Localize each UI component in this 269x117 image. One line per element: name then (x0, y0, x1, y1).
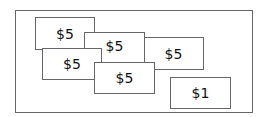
bill-label: $5 (116, 70, 134, 86)
bill-label: $1 (192, 85, 210, 101)
bill-label: $5 (106, 38, 124, 54)
bill-label: $5 (63, 56, 81, 72)
bill-label: $5 (56, 26, 74, 42)
bill-label: $5 (165, 46, 183, 62)
bill-5-b: $5 (42, 48, 102, 80)
bill-5-d: $5 (94, 62, 155, 94)
bill-1: $1 (170, 77, 231, 109)
